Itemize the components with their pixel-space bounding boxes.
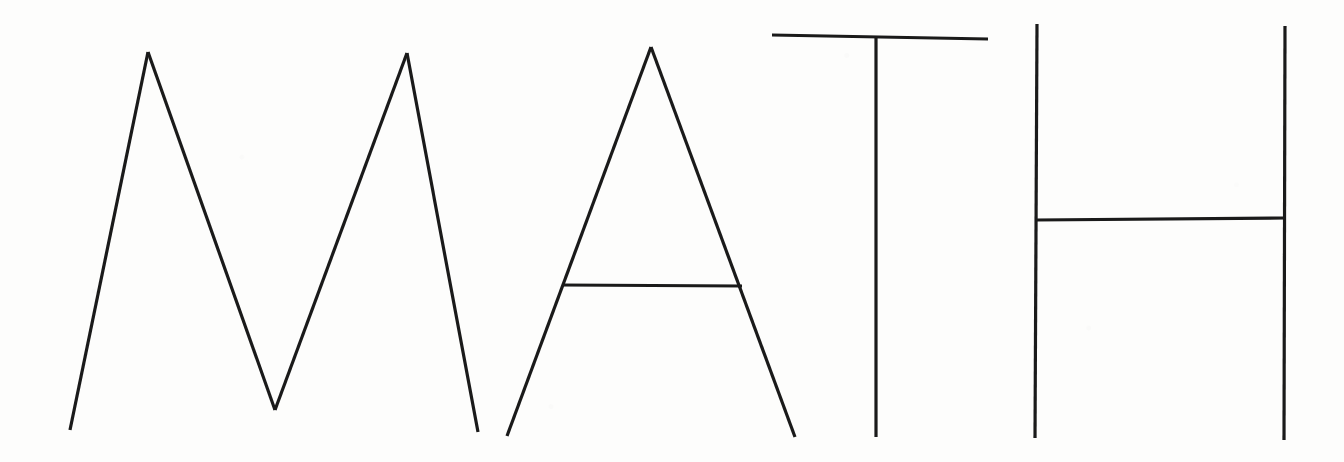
letter-t — [772, 35, 988, 437]
h-right-stem — [1284, 26, 1285, 440]
drawing-canvas — [0, 0, 1344, 462]
a-right-diagonal — [651, 47, 795, 437]
letter-m — [70, 52, 478, 432]
letter-h — [1035, 24, 1285, 440]
math-lettering — [0, 0, 1344, 462]
letter-a — [507, 47, 795, 437]
a-left-diagonal — [507, 47, 651, 436]
m-right-diagonal — [275, 53, 407, 410]
m-right-leg — [407, 53, 478, 432]
t-top-bar — [772, 35, 988, 39]
m-left-leg — [70, 52, 148, 430]
h-crossbar — [1036, 218, 1285, 220]
m-left-diagonal — [148, 52, 275, 410]
a-crossbar — [562, 285, 742, 286]
h-left-stem — [1035, 24, 1037, 438]
